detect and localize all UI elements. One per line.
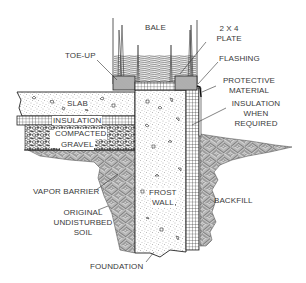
- toe-up: [113, 76, 135, 90]
- label-compacted: COMPACTED: [54, 129, 107, 139]
- label-insulation-when-line3: REQUIRED: [225, 119, 287, 129]
- label-toe-up: TOE-UP: [65, 51, 96, 61]
- label-protective-line2: MATERIAL: [218, 86, 280, 96]
- label-protective-line1: PROTECTIVE: [218, 76, 280, 86]
- label-insulation-when-line1: INSULATION: [225, 99, 287, 109]
- label-plate-line2: PLATE: [211, 34, 247, 44]
- label-insulation: INSULATION: [52, 116, 102, 125]
- label-insulation-when-line2: WHEN: [225, 109, 287, 119]
- label-bale: BALE: [145, 23, 166, 33]
- foundation-cross-section-diagram: [0, 0, 306, 283]
- label-gravel: GRAVEL: [60, 140, 94, 150]
- label-original-line2: UNDISTURBED: [51, 218, 115, 228]
- label-original-line1: ORIGINAL: [55, 208, 111, 218]
- label-vapor-barrier: VAPOR BARRIER: [33, 187, 100, 197]
- label-backfill: BACKFILL: [214, 196, 253, 206]
- label-frost: FROST: [148, 188, 178, 198]
- label-slab: SLAB: [66, 99, 89, 109]
- label-flashing: FLASHING: [219, 54, 260, 64]
- label-plate-line1: 2 X 4: [214, 24, 244, 34]
- frost-wall: [135, 90, 186, 257]
- label-foundation: FOUNDATION: [90, 262, 143, 272]
- wall-insulation: [186, 88, 199, 250]
- label-wall: WALL: [151, 198, 175, 208]
- label-original-line3: SOIL: [55, 228, 111, 238]
- backfill: [200, 134, 292, 246]
